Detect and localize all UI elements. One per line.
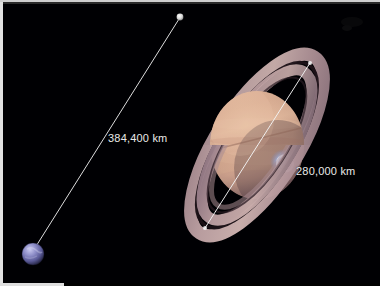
earth-sphere <box>22 243 44 265</box>
earth-moon-distance-label: 384,400 km <box>108 132 167 144</box>
astronomy-illustration <box>0 0 380 286</box>
saturn-ring-diameter-label: 280,000 km <box>296 165 355 177</box>
corner-artifact <box>341 17 363 31</box>
moon-sphere <box>177 14 184 21</box>
scale-comparison-figure: 384,400 km 280,000 km <box>0 0 380 286</box>
